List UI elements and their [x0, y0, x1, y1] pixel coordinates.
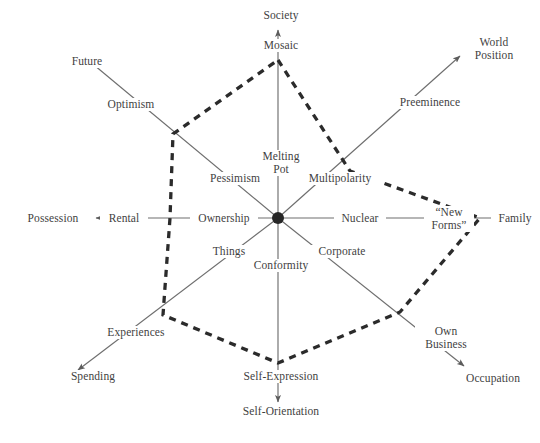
label-possession: Possession — [16, 212, 90, 225]
label-preeminence: Preeminence — [391, 96, 469, 109]
label-spending: Spending — [60, 370, 126, 383]
label-new-forms-line1: “New — [424, 206, 474, 219]
label-self-orientation: Self-Orientation — [234, 405, 328, 418]
label-mosaic: Mosaic — [255, 39, 307, 52]
label-ownership: Ownership — [190, 212, 258, 225]
axis-line-down-left — [78, 218, 278, 370]
label-family: Family — [491, 212, 539, 225]
axis-line-up-left — [88, 60, 278, 218]
axis-line-up-right — [278, 56, 460, 218]
label-experiences: Experiences — [97, 326, 175, 339]
label-future: Future — [63, 55, 111, 68]
center-hub — [272, 212, 284, 224]
label-pessimism: Pessimism — [200, 172, 270, 185]
label-society: Society — [257, 9, 305, 22]
label-self-expression: Self-Expression — [236, 370, 326, 383]
label-own-business-line1: Own — [415, 325, 477, 338]
label-rental: Rental — [100, 212, 148, 225]
radar-diagram: Society Mosaic Melting Pot World Positio… — [0, 0, 540, 443]
label-optimism: Optimism — [99, 98, 163, 111]
label-multipolarity: Multipolarity — [300, 172, 380, 185]
label-conformity: Conformity — [249, 259, 313, 272]
label-melting-pot-line1: Melting — [255, 150, 307, 163]
label-new-forms-line2: Forms” — [424, 219, 474, 232]
label-world-position-line2: Position — [466, 49, 522, 62]
label-things: Things — [205, 245, 253, 258]
label-own-business-line2: Business — [415, 338, 477, 351]
label-occupation: Occupation — [456, 372, 530, 385]
label-corporate: Corporate — [311, 245, 373, 258]
label-world-position-line1: World — [466, 36, 522, 49]
label-nuclear: Nuclear — [334, 212, 386, 225]
